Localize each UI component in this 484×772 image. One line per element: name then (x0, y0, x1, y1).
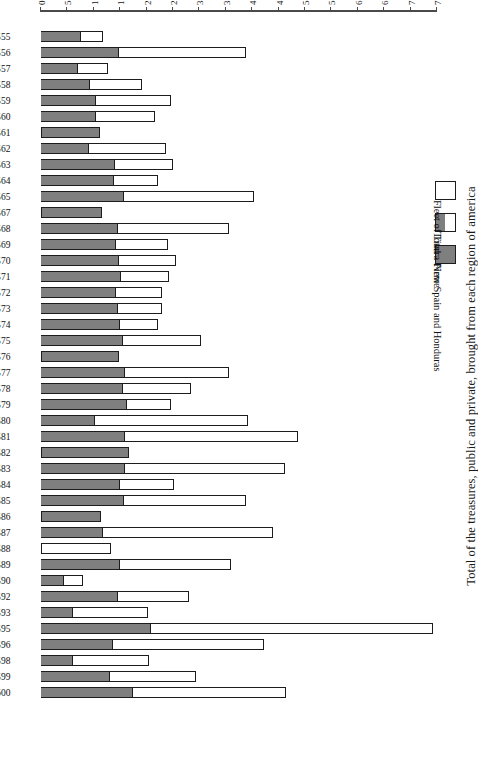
year-axis-label: 1562 (0, 144, 37, 154)
bar-segment-tierra-firme (110, 671, 196, 682)
year-axis-label: 1592 (0, 592, 37, 602)
axis-tick-mark (40, 7, 41, 12)
bar-segment-new-spain (41, 31, 81, 42)
stacked-bar (41, 175, 158, 186)
year-axis-label: 1565 (0, 192, 37, 202)
legend-label: Fleet of Tierra Firme (432, 200, 443, 288)
bar-segment-new-spain (41, 207, 102, 218)
bar-segment-tierra-firme (81, 31, 103, 42)
axis-tick-mark (278, 7, 279, 12)
bar-segment-new-spain (41, 335, 123, 346)
stacked-bar (41, 543, 111, 554)
bar-segment-tierra-firme (103, 527, 273, 538)
stacked-bar (41, 47, 246, 58)
bar-row: 1582 (41, 444, 437, 460)
stacked-bar (41, 687, 286, 698)
stacked-bar (41, 287, 162, 298)
bar-segment-tierra-firme (120, 479, 174, 490)
axis-tick-mark (251, 7, 252, 12)
bar-segment-tierra-firme (121, 271, 169, 282)
chart-figure: Total of the treasures, public and priva… (0, 0, 484, 772)
stacked-bar (41, 271, 169, 282)
year-axis-label: 1577 (0, 368, 37, 378)
bar-row: 1584 (41, 476, 437, 492)
axis-tick-mark (172, 7, 173, 12)
stacked-bar (41, 143, 166, 154)
bar-row: 1583 (41, 460, 437, 476)
chart-legend: New Spain and HondurasTotalFleet of Tier… (336, 88, 456, 264)
bar-segment-tierra-firme (96, 95, 171, 106)
bar-segment-tierra-firme (133, 687, 286, 698)
year-axis-label: 1599 (0, 672, 37, 682)
stacked-bar (41, 319, 158, 330)
stacked-bar (41, 607, 148, 618)
stacked-bar (41, 463, 285, 474)
stacked-bar (41, 639, 264, 650)
stacked-bar (41, 127, 100, 138)
bar-row: 1573 (41, 300, 437, 316)
stacked-bar (41, 559, 231, 570)
axis-tick-mark (357, 7, 358, 12)
axis-tick-label: 500 (63, 0, 73, 5)
legend-swatch (435, 181, 456, 200)
stacked-bar (41, 351, 119, 362)
year-axis-label: 1581 (0, 432, 37, 442)
bar-segment-new-spain (41, 303, 118, 314)
bar-segment-tierra-firme (125, 463, 284, 474)
bar-row: 1587 (41, 524, 437, 540)
stacked-bar (41, 367, 229, 378)
bar-segment-tierra-firme (119, 47, 246, 58)
bar-segment-tierra-firme (127, 399, 171, 410)
year-axis-label: 1598 (0, 656, 37, 666)
bar-segment-new-spain (41, 559, 120, 570)
year-axis-label: 1555 (0, 32, 37, 42)
year-axis-label: 1578 (0, 384, 37, 394)
bar-segment-tierra-firme (64, 575, 82, 586)
bar-row: 1576 (41, 348, 437, 364)
year-axis-label: 1575 (0, 336, 37, 346)
bar-segment-new-spain (41, 495, 124, 506)
axis-tick-mark (304, 7, 305, 12)
stacked-bar (41, 207, 102, 218)
year-axis-label: 1588 (0, 544, 37, 554)
bar-segment-tierra-firme (123, 383, 191, 394)
bar-segment-new-spain (41, 255, 119, 266)
axis-tick-mark (93, 7, 94, 12)
year-axis-label: 1557 (0, 64, 37, 74)
axis-tick-label: 6 500 (380, 0, 390, 5)
stacked-bar (41, 159, 173, 170)
bar-row: 1585 (41, 492, 437, 508)
stacked-bar (41, 655, 149, 666)
bar-segment-new-spain (41, 47, 119, 58)
axis-tick-label: 2 500 (169, 0, 179, 5)
bar-segment-new-spain (41, 351, 119, 362)
stacked-bar (41, 303, 162, 314)
bar-row: 1592 (41, 588, 437, 604)
bar-segment-new-spain (41, 575, 64, 586)
year-axis-label: 1593 (0, 608, 37, 618)
year-axis-label: 1558 (0, 80, 37, 90)
stacked-bar (41, 623, 433, 634)
bar-row: 1593 (41, 604, 437, 620)
axis-tick-label: 5000 (301, 0, 311, 5)
bar-row: 1588 (41, 540, 437, 556)
bar-segment-new-spain (41, 623, 151, 634)
bar-segment-tierra-firme (118, 591, 190, 602)
stacked-bar (41, 239, 168, 250)
year-axis-label: 1556 (0, 48, 37, 58)
stacked-bar (41, 511, 101, 522)
year-axis-label: 1561 (0, 128, 37, 138)
year-axis-label: 1595 (0, 624, 37, 634)
year-axis-label: 1569 (0, 240, 37, 250)
bar-segment-tierra-firme (116, 239, 168, 250)
bar-row: 1595 (41, 620, 437, 636)
axis-tick-label: 7 500 (433, 0, 443, 5)
bar-segment-tierra-firme (115, 159, 173, 170)
value-axis: 050010001 50020002 50030003 50040004 500… (41, 10, 437, 12)
bar-segment-new-spain (41, 511, 101, 522)
stacked-bar (41, 63, 108, 74)
axis-tick-mark (119, 7, 120, 12)
axis-tick-mark (225, 7, 226, 12)
stacked-bar (41, 79, 142, 90)
bar-segment-new-spain (41, 399, 127, 410)
